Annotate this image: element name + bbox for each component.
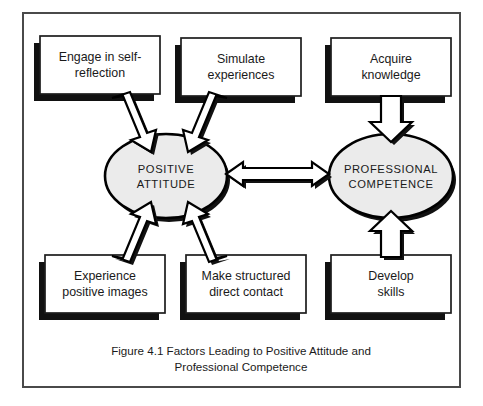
box-label-line1: Acquire — [370, 52, 412, 66]
node-label-line2: COMPETENCE — [349, 178, 434, 190]
box-label-line2: positive images — [62, 285, 147, 299]
box-label-line2: knowledge — [361, 68, 420, 82]
box-face — [331, 38, 451, 96]
node-label-line2: ATTITUDE — [137, 178, 196, 190]
figure-container: Engage in self- reflection Simulate expe… — [0, 0, 483, 406]
figure-caption-line2: Professional Competence — [175, 360, 308, 373]
node-label-line1: POSITIVE — [138, 163, 194, 175]
box-label-line2: skills — [378, 285, 405, 299]
box-face — [40, 36, 160, 94]
node-positive-attitude[interactable]: POSITIVE ATTITUDE — [105, 134, 230, 222]
box-label-line2: reflection — [75, 66, 125, 80]
box-label-line2: experiences — [208, 68, 275, 82]
box-simulate-experiences[interactable]: Simulate experiences — [175, 38, 301, 103]
box-make-structured-direct-contact[interactable]: Make structured direct contact — [180, 255, 306, 320]
box-label-line2: direct contact — [209, 285, 283, 299]
box-face — [186, 255, 306, 313]
figure-diagram: Engage in self- reflection Simulate expe… — [0, 0, 483, 406]
ellipse-face — [105, 134, 227, 218]
arrow-body — [183, 202, 227, 262]
box-label-line1: Develop — [368, 269, 414, 283]
box-develop-skills[interactable]: Develop skills — [325, 255, 451, 320]
box-engage-in-self-reflection[interactable]: Engage in self- reflection — [34, 36, 160, 101]
arrow-attitude-competence-bidirectional — [226, 162, 332, 189]
arrow-body — [112, 202, 156, 262]
node-professional-competence[interactable]: PROFESSIONAL COMPETENCE — [329, 134, 456, 222]
ellipse-face — [329, 134, 453, 218]
box-label-line1: Engage in self- — [59, 50, 142, 64]
box-label-line1: Experience — [74, 269, 136, 283]
box-label-line1: Make structured — [202, 269, 291, 283]
box-face — [45, 255, 165, 313]
box-face — [181, 38, 301, 96]
box-acquire-knowledge[interactable]: Acquire knowledge — [325, 38, 451, 103]
box-face — [331, 255, 451, 313]
node-label-line1: PROFESSIONAL — [344, 163, 438, 175]
figure-caption-line1: Figure 4.1 Factors Leading to Positive A… — [111, 344, 371, 357]
box-experience-positive-images[interactable]: Experience positive images — [39, 255, 165, 320]
box-label-line1: Simulate — [217, 52, 265, 66]
